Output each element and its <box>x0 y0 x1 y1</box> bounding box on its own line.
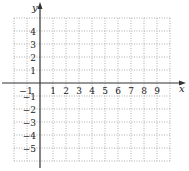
y-tick-label: −3 <box>23 118 37 128</box>
y-tick-label: 3 <box>30 40 36 50</box>
x-tick-label: 2 <box>63 86 69 96</box>
x-tick-label: 6 <box>115 86 121 96</box>
x-tick-label: 9 <box>154 86 160 96</box>
y-tick-label: −1 <box>23 92 36 102</box>
y-tick-label: 4 <box>30 27 36 37</box>
coordinate-grid: x y −1123456789 4321−1−2−3−4−5 <box>0 0 189 171</box>
y-tick-label: −5 <box>23 144 37 154</box>
x-tick-label: 4 <box>89 86 95 96</box>
y-tick-label: −4 <box>23 131 37 141</box>
x-tick-label: 5 <box>102 86 108 96</box>
x-tick-label: 8 <box>141 86 147 96</box>
y-tick-label: −2 <box>23 105 36 115</box>
y-axis-label: y <box>31 2 38 13</box>
x-tick-label: 3 <box>76 86 82 96</box>
y-axis-arrow-icon <box>38 2 43 9</box>
x-tick-label: 1 <box>50 86 56 96</box>
y-tick-label: 1 <box>30 66 36 76</box>
x-tick-label: 7 <box>128 86 134 96</box>
x-axis-label: x <box>179 83 185 94</box>
y-tick-label: 2 <box>30 53 36 63</box>
